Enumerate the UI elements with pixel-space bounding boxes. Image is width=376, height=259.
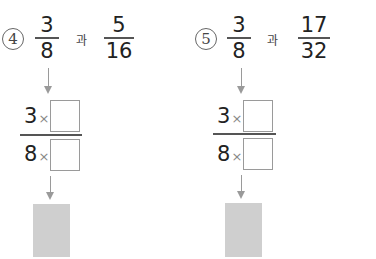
denominator-answer-box[interactable] <box>243 138 273 170</box>
fraction-2: 17 32 <box>298 14 330 62</box>
down-arrow-icon <box>241 68 242 88</box>
numerator-expression: 3× <box>217 104 242 131</box>
connector-text: 과 <box>76 31 87 48</box>
fraction-1: 3 8 <box>35 14 59 62</box>
denominator: 16 <box>106 40 133 62</box>
denominator: 8 <box>232 40 245 62</box>
times-icon: × <box>38 149 49 164</box>
denominator: 32 <box>301 40 328 62</box>
connector-text: 과 <box>267 31 278 48</box>
denominator-factor: 8 <box>24 142 37 166</box>
down-arrow-icon <box>241 175 242 193</box>
numerator: 17 <box>301 14 328 36</box>
denominator: 8 <box>40 40 53 62</box>
times-icon: × <box>231 149 242 164</box>
answer-box[interactable] <box>225 203 262 257</box>
denominator-expression: 8× <box>24 142 49 169</box>
down-arrow-icon <box>50 176 51 194</box>
numerator-factor: 3 <box>24 104 37 128</box>
down-arrow-icon <box>48 68 49 88</box>
problem-number-badge: 4 <box>2 28 24 50</box>
denominator-expression: 8× <box>217 142 242 169</box>
numerator-answer-box[interactable] <box>50 100 80 132</box>
fraction-2: 5 16 <box>104 14 134 62</box>
fraction-1: 3 8 <box>227 14 251 62</box>
problem-number-badge: 5 <box>195 28 217 50</box>
denominator-factor: 8 <box>217 142 230 166</box>
numerator-expression: 3× <box>24 104 49 131</box>
denominator-answer-box[interactable] <box>50 139 80 171</box>
fraction-line <box>20 134 82 136</box>
fraction-line <box>213 133 276 135</box>
times-icon: × <box>38 111 49 126</box>
times-icon: × <box>231 111 242 126</box>
answer-box[interactable] <box>33 204 70 257</box>
numerator-factor: 3 <box>217 104 230 128</box>
numerator: 3 <box>40 14 53 36</box>
numerator: 3 <box>232 14 245 36</box>
numerator-answer-box[interactable] <box>243 100 273 132</box>
numerator: 5 <box>112 14 125 36</box>
